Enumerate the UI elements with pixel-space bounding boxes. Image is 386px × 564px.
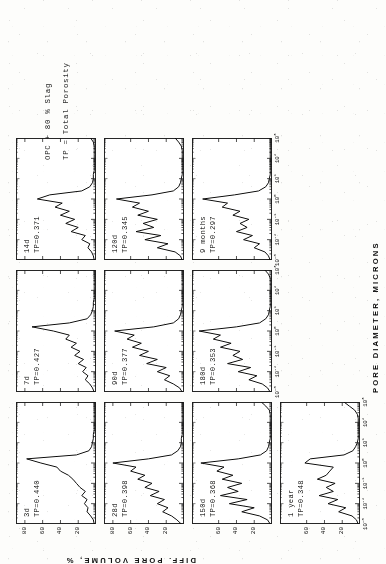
panel-total-porosity-label: TP=0.440 (32, 480, 42, 517)
y-tick-label: 60 (40, 527, 46, 540)
annotation-tp-definition: TP = Total Porosity (62, 62, 70, 160)
x-tick-label: 101 (275, 306, 281, 315)
x-tick-label: 10-2 (275, 366, 281, 378)
panel-total-porosity-label: TP=0.297 (208, 216, 218, 253)
panel-age-label: 9 months (198, 216, 208, 253)
x-tick-label: 103 (363, 397, 369, 406)
x-tick-label: 10-1 (363, 477, 369, 489)
panel-curve (16, 402, 96, 524)
plot-panel-1-year: 1 yearTP=0.348 (280, 402, 360, 524)
panel-total-porosity-label: TP=0.398 (120, 480, 130, 517)
y-tick-label: 60 (128, 527, 134, 540)
plot-panel-7d: 7dTP=0.427 (16, 270, 96, 392)
y-tick-label: 40 (321, 527, 327, 540)
x-tick-label: 10-3 (363, 518, 369, 530)
x-tick-label: 102 (275, 154, 281, 163)
x-tick-label: 10-3 (275, 386, 281, 398)
x-tick-label: 100 (275, 194, 281, 203)
plot-panel-120d: 120dTP=0.345 (104, 138, 184, 260)
panel-total-porosity-label: TP=0.371 (32, 216, 42, 253)
x-tick-label: 103 (275, 265, 281, 274)
x-axis-title: PORE DIAMETER, MICRONS (371, 241, 380, 393)
panel-curve (16, 270, 96, 392)
plot-panel-9-months: 9 monthsTP=0.297 (192, 138, 272, 260)
y-tick-label: 40 (233, 527, 239, 540)
panel-age-label: 1 year (286, 489, 296, 517)
plot-panel-28d: 28dTP=0.398 (104, 402, 184, 524)
plot-panel-180d: 180dTP=0.353 (192, 270, 272, 392)
x-tick-label: 102 (363, 418, 369, 427)
plot-panel-90d: 90dTP=0.377 (104, 270, 184, 392)
panel-age-label: 120d (110, 235, 120, 253)
x-tick-label: 10-1 (275, 213, 281, 225)
y-tick-label: 20 (339, 527, 345, 540)
x-tick-label: 10-2 (275, 234, 281, 246)
scanned-figure-page: 3dTP=0.440806040207dTP=0.42714dTP=0.3712… (0, 0, 386, 564)
x-tick-label: 100 (363, 458, 369, 467)
x-tick-label: 103 (275, 133, 281, 142)
y-tick-label: 20 (251, 527, 257, 540)
plot-panel-3d: 3dTP=0.440 (16, 402, 96, 524)
y-tick-label: 60 (304, 527, 310, 540)
panel-age-label: 90d (110, 371, 120, 385)
panel-total-porosity-label: TP=0.348 (296, 480, 306, 517)
x-tick-label: 101 (363, 438, 369, 447)
x-tick-label: 10-2 (363, 498, 369, 510)
panel-age-label: 150d (198, 499, 208, 517)
y-tick-label: 40 (145, 527, 151, 540)
y-tick-label: 20 (163, 527, 169, 540)
y-tick-label: 60 (216, 527, 222, 540)
annotation-mix-description: OPC + 80 % Slag (44, 83, 52, 160)
y-tick-label: 80 (110, 527, 116, 540)
panel-total-porosity-label: TP=0.377 (120, 348, 130, 385)
panel-total-porosity-label: TP=0.427 (32, 348, 42, 385)
y-axis-title: DIFF. PORE VOLUME, % (65, 556, 196, 564)
plot-panel-150d: 150dTP=0.368 (192, 402, 272, 524)
x-tick-label: 101 (275, 174, 281, 183)
plot-panel-14d: 14dTP=0.371 (16, 138, 96, 260)
y-tick-label: 20 (75, 527, 81, 540)
panel-age-label: 180d (198, 367, 208, 385)
figure-sheet: 3dTP=0.440806040207dTP=0.42714dTP=0.3712… (0, 0, 386, 564)
panel-age-label: 3d (22, 508, 32, 517)
panel-total-porosity-label: TP=0.368 (208, 480, 218, 517)
x-tick-label: 10-3 (275, 254, 281, 266)
y-tick-label: 80 (22, 527, 28, 540)
y-tick-label: 40 (57, 527, 63, 540)
panel-total-porosity-label: TP=0.345 (120, 216, 130, 253)
panel-total-porosity-label: TP=0.353 (208, 348, 218, 385)
panel-age-label: 14d (22, 239, 32, 253)
x-tick-label: 100 (275, 326, 281, 335)
x-tick-label: 10-1 (275, 345, 281, 357)
panel-age-label: 28d (110, 503, 120, 517)
panel-age-label: 7d (22, 376, 32, 385)
x-tick-label: 102 (275, 286, 281, 295)
